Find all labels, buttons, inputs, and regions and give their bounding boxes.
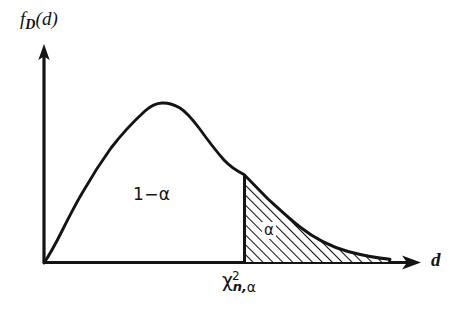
critical-value-subscript-n: n, — [233, 279, 247, 294]
alpha-tail-shading — [240, 168, 396, 266]
y-axis-label: fD(d) — [20, 9, 58, 32]
y-axis-label-subscript: D — [25, 17, 35, 32]
density-curve — [44, 103, 390, 263]
y-axis — [38, 44, 49, 263]
critical-value-subscript-alpha: α — [247, 279, 256, 295]
x-axis-label: d — [431, 250, 441, 269]
tail-region-label: α — [262, 222, 276, 239]
critical-value-label: χ2n,α — [222, 270, 256, 294]
figure-root: fD(d) d 1−α α χ2n,α — [0, 0, 460, 311]
confidence-region-label: 1−α — [133, 186, 170, 203]
density-plot-canvas — [0, 0, 460, 311]
y-axis-label-argument: (d) — [36, 8, 58, 29]
